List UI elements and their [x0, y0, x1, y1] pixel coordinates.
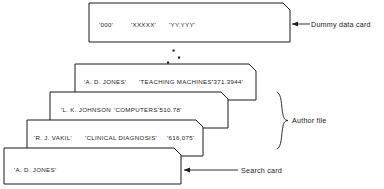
author-card-2-call-number: '510.78'	[158, 106, 182, 113]
author-card-3-author: 'R. J. VAKIL'	[34, 134, 72, 141]
dummy-field-xxxxx: 'XXXXX'	[131, 21, 156, 28]
dummy-field-000: '000'	[99, 21, 113, 28]
author-card-3-title: 'CLINICAL DIAGNOSIS'	[85, 134, 157, 141]
author-file-label: Author file	[292, 116, 327, 125]
author-card-1-call-number: '371.3944'	[212, 78, 243, 85]
author-card-1-title: 'TEACHING MACHINES'	[139, 78, 213, 85]
dummy-data-card-label: Dummy data card	[311, 20, 371, 29]
dummy-field-yyyyy: 'YY,YYY'	[169, 21, 195, 28]
author-card-3-call-number: '616,075'	[167, 134, 195, 141]
search-card-label: Search card	[241, 166, 282, 175]
author-card-2-author: 'L. K. JOHNSON	[61, 106, 111, 113]
author-card-2-title: 'COMPUTERS	[114, 106, 158, 113]
search-card-author: 'A. D. JONES'	[14, 166, 56, 173]
card-file-diagram: '000' 'XXXXX' 'YY,YYY' 'A. D. JONES' 'TE…	[0, 0, 384, 189]
author-card-1-author: 'A. D. JONES'	[84, 78, 126, 85]
